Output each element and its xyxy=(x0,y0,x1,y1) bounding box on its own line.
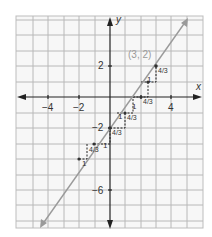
y-axis-label: y xyxy=(116,15,121,25)
step-run-label: 1 xyxy=(132,103,136,111)
step-run-label: 1 xyxy=(103,142,107,150)
y-tick-label-neg6: −6 xyxy=(92,186,103,196)
x-tick-label-neg4: −4 xyxy=(42,103,53,113)
y-tick-label-neg2: −2 xyxy=(92,123,103,133)
y-tick-label-2: 2 xyxy=(98,61,104,71)
x-tick-label-4: 4 xyxy=(168,103,174,113)
step-rise-label: 4/3 xyxy=(89,146,99,153)
step-rise-label: 4/3 xyxy=(143,98,153,105)
x-axis-label: x xyxy=(196,82,201,92)
step-rise-label: 4/3 xyxy=(112,129,122,136)
point-label: (3, 2) xyxy=(128,50,151,60)
step-rise-label: 4/3 xyxy=(158,67,168,74)
x-tick-label-neg2: −2 xyxy=(73,103,84,113)
coordinate-graph xyxy=(0,0,212,237)
step-rise-label: 4/3 xyxy=(127,114,137,121)
step-run-label: 1 xyxy=(118,113,122,121)
step-run-label: 1 xyxy=(147,76,151,84)
step-run-label: 1 xyxy=(82,160,86,168)
